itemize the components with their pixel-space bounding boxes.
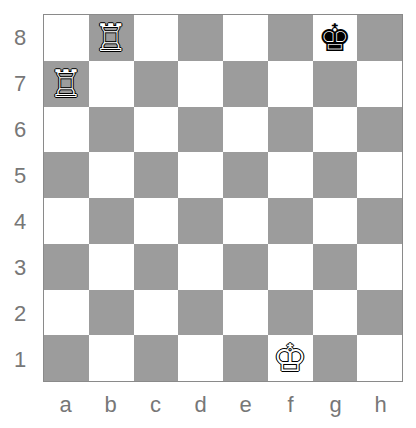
square-f4[interactable] bbox=[268, 198, 313, 244]
square-g2[interactable] bbox=[313, 290, 358, 336]
rank-label-1: 1 bbox=[8, 347, 32, 373]
rank-label-6: 6 bbox=[8, 117, 32, 143]
square-e8[interactable] bbox=[223, 15, 268, 61]
square-b6[interactable] bbox=[89, 107, 134, 153]
file-label-c: c bbox=[133, 392, 178, 418]
file-label-h: h bbox=[358, 392, 403, 418]
square-h2[interactable] bbox=[357, 290, 402, 336]
square-d5[interactable] bbox=[178, 152, 223, 198]
file-label-g: g bbox=[313, 392, 358, 418]
square-a5[interactable] bbox=[44, 152, 89, 198]
square-f6[interactable] bbox=[268, 107, 313, 153]
square-d1[interactable] bbox=[178, 335, 223, 381]
square-c1[interactable] bbox=[134, 335, 179, 381]
black-king-icon[interactable]: ♚ bbox=[318, 19, 352, 57]
square-b4[interactable] bbox=[89, 198, 134, 244]
rank-label-2: 2 bbox=[8, 301, 32, 327]
square-c5[interactable] bbox=[134, 152, 179, 198]
square-g1[interactable] bbox=[313, 335, 358, 381]
square-h8[interactable] bbox=[357, 15, 402, 61]
white-king-icon[interactable]: ♔ bbox=[273, 339, 307, 377]
square-g6[interactable] bbox=[313, 107, 358, 153]
square-d7[interactable] bbox=[178, 61, 223, 107]
square-h3[interactable] bbox=[357, 244, 402, 290]
square-d3[interactable] bbox=[178, 244, 223, 290]
square-g5[interactable] bbox=[313, 152, 358, 198]
square-e7[interactable] bbox=[223, 61, 268, 107]
file-label-b: b bbox=[88, 392, 133, 418]
white-rook-icon[interactable]: ♖ bbox=[94, 19, 128, 57]
square-c7[interactable] bbox=[134, 61, 179, 107]
square-a2[interactable] bbox=[44, 290, 89, 336]
square-a4[interactable] bbox=[44, 198, 89, 244]
file-label-a: a bbox=[43, 392, 88, 418]
square-e2[interactable] bbox=[223, 290, 268, 336]
file-label-f: f bbox=[268, 392, 313, 418]
square-b1[interactable] bbox=[89, 335, 134, 381]
square-c2[interactable] bbox=[134, 290, 179, 336]
rank-label-4: 4 bbox=[8, 209, 32, 235]
square-b3[interactable] bbox=[89, 244, 134, 290]
file-label-e: e bbox=[223, 392, 268, 418]
square-f1[interactable]: ♔ bbox=[268, 335, 313, 381]
square-a7[interactable]: ♖ bbox=[44, 61, 89, 107]
white-rook-icon[interactable]: ♖ bbox=[49, 65, 83, 103]
square-a1[interactable] bbox=[44, 335, 89, 381]
square-h7[interactable] bbox=[357, 61, 402, 107]
square-d8[interactable] bbox=[178, 15, 223, 61]
square-c6[interactable] bbox=[134, 107, 179, 153]
square-e4[interactable] bbox=[223, 198, 268, 244]
square-h1[interactable] bbox=[357, 335, 402, 381]
chess-board: ♖♚♖♔ bbox=[43, 14, 403, 382]
square-d4[interactable] bbox=[178, 198, 223, 244]
square-e3[interactable] bbox=[223, 244, 268, 290]
square-a6[interactable] bbox=[44, 107, 89, 153]
square-f3[interactable] bbox=[268, 244, 313, 290]
square-a3[interactable] bbox=[44, 244, 89, 290]
square-e6[interactable] bbox=[223, 107, 268, 153]
square-b8[interactable]: ♖ bbox=[89, 15, 134, 61]
square-e5[interactable] bbox=[223, 152, 268, 198]
rank-label-3: 3 bbox=[8, 255, 32, 281]
square-b5[interactable] bbox=[89, 152, 134, 198]
square-c8[interactable] bbox=[134, 15, 179, 61]
square-g8[interactable]: ♚ bbox=[313, 15, 358, 61]
square-c4[interactable] bbox=[134, 198, 179, 244]
square-g3[interactable] bbox=[313, 244, 358, 290]
square-h5[interactable] bbox=[357, 152, 402, 198]
square-g4[interactable] bbox=[313, 198, 358, 244]
square-h6[interactable] bbox=[357, 107, 402, 153]
square-f5[interactable] bbox=[268, 152, 313, 198]
file-label-d: d bbox=[178, 392, 223, 418]
square-b7[interactable] bbox=[89, 61, 134, 107]
square-b2[interactable] bbox=[89, 290, 134, 336]
rank-label-7: 7 bbox=[8, 71, 32, 97]
square-d6[interactable] bbox=[178, 107, 223, 153]
square-h4[interactable] bbox=[357, 198, 402, 244]
square-f8[interactable] bbox=[268, 15, 313, 61]
square-d2[interactable] bbox=[178, 290, 223, 336]
square-e1[interactable] bbox=[223, 335, 268, 381]
square-g7[interactable] bbox=[313, 61, 358, 107]
square-f2[interactable] bbox=[268, 290, 313, 336]
square-f7[interactable] bbox=[268, 61, 313, 107]
rank-label-5: 5 bbox=[8, 163, 32, 189]
rank-label-8: 8 bbox=[8, 25, 32, 51]
square-a8[interactable] bbox=[44, 15, 89, 61]
square-c3[interactable] bbox=[134, 244, 179, 290]
